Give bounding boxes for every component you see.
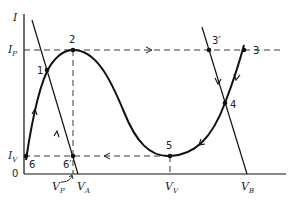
point-4 — [223, 101, 228, 106]
arrow-up-icon — [54, 131, 59, 137]
point-3 — [242, 48, 247, 53]
label-point-4: 4 — [230, 99, 236, 110]
point-3-prime — [207, 48, 212, 53]
vv-label: VV — [165, 180, 179, 195]
label-point-3: 3 — [253, 45, 259, 56]
tunnel-diode-diagram: 1 2 3 3′ 4 5 6 6′ I 0 IP IV VP VA VV VB — [0, 0, 293, 201]
axes — [24, 14, 286, 174]
vp-pointer-arrow — [61, 176, 72, 182]
y-axis-label: I — [12, 11, 18, 24]
label-point-2: 2 — [69, 34, 75, 45]
ip-label: IP — [7, 43, 17, 58]
origin-label: 0 — [12, 168, 18, 179]
label-point-6: 6 — [29, 159, 35, 170]
label-point-6-prime: 6′ — [63, 159, 72, 170]
point-5 — [168, 154, 173, 159]
dashed-guides — [24, 50, 283, 174]
arrowheads-dashed — [104, 47, 152, 159]
label-point-5: 5 — [166, 140, 172, 151]
iv-characteristic-curve — [26, 45, 244, 160]
point-1 — [45, 68, 50, 73]
iv-label: IV — [7, 149, 18, 164]
label-point-1: 1 — [37, 65, 43, 76]
va-label: VA — [77, 180, 90, 195]
point-6 — [24, 154, 29, 159]
label-point-3-prime: 3′ — [212, 35, 221, 46]
point-2 — [71, 48, 76, 53]
vb-label: VB — [241, 180, 254, 195]
point-6-prime — [71, 154, 76, 159]
